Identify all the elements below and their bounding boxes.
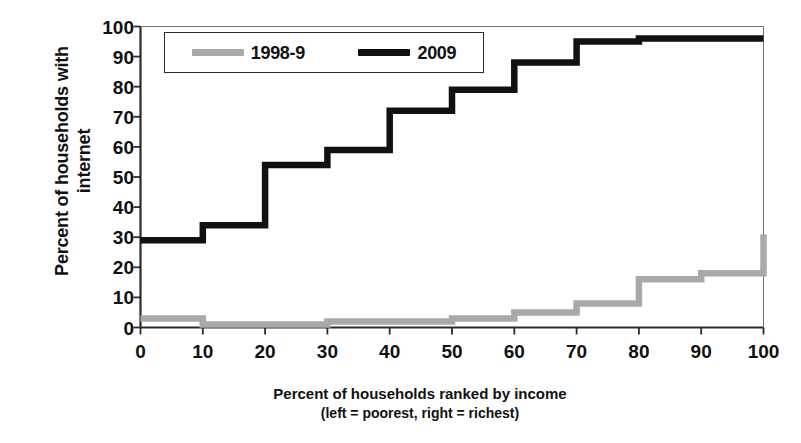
x-axis-title-line2: (left = poorest, right = richest) (100, 404, 740, 423)
legend-entry: 2009 (358, 44, 456, 62)
series-line-1998-9 (141, 234, 764, 324)
legend-swatch (192, 49, 244, 56)
legend-swatch (358, 49, 410, 56)
legend-label: 2009 (417, 44, 456, 62)
legend-entry: 1998-9 (192, 44, 305, 62)
chart-figure: Percent of households with internet 0102… (0, 0, 801, 443)
x-axis-title-line1: Percent of households ranked by income (273, 385, 566, 402)
legend-label: 1998-9 (251, 44, 305, 62)
chart-legend: 1998-92009 (164, 32, 484, 73)
x-axis-title: Percent of households ranked by income (… (100, 384, 740, 423)
series-lines (141, 39, 764, 325)
